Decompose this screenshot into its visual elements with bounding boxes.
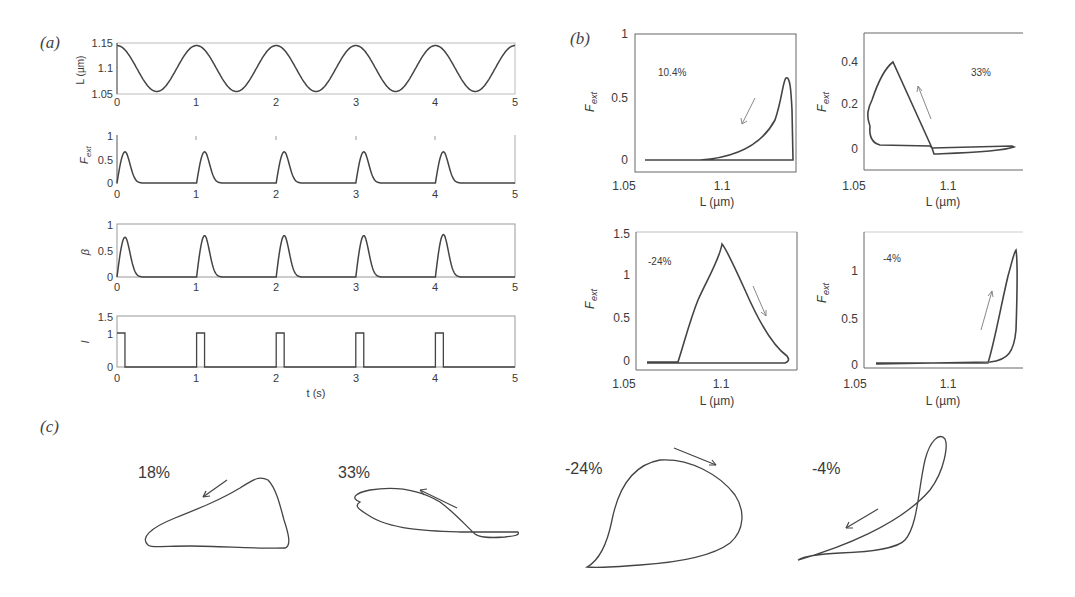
I-series-line: [117, 333, 515, 367]
y-axis-label: L (µm): [75, 56, 86, 85]
y-tick-label: 0: [621, 153, 628, 167]
x-tick-label: 1.1: [713, 377, 730, 391]
loop-curve: [645, 78, 793, 160]
y-axis-label: F ext: [815, 282, 831, 303]
x-tick-labels: 0 1 2 3 4 5: [114, 281, 518, 293]
svg-text:4: 4: [432, 96, 438, 108]
y-tick-label: 0.5: [611, 91, 628, 105]
chart-b4: -4% 1 0.5 0 F ext 1.05 1.1 L (µm): [815, 232, 1023, 408]
svg-text:4: 4: [432, 281, 438, 293]
direction-arrow: [674, 448, 716, 465]
svg-text:3: 3: [353, 96, 359, 108]
svg-text:3: 3: [353, 281, 359, 293]
svg-text:1: 1: [193, 188, 199, 200]
x-axis-label: t (s): [307, 387, 326, 399]
x-axis-label: L (µm): [926, 195, 960, 209]
svg-text:F: F: [815, 295, 829, 303]
plot-frame: [635, 34, 796, 172]
y-tick-label: 0.2: [841, 97, 858, 111]
panel-label-c: (c): [40, 417, 59, 436]
percent-annotation: -4%: [883, 253, 901, 264]
loop-label-minus24: -24%: [565, 460, 602, 477]
x-axis-label: L (µm): [700, 394, 734, 408]
svg-text:4: 4: [432, 372, 438, 384]
y-tick-label: 0: [107, 271, 113, 283]
svg-text:5: 5: [512, 188, 518, 200]
svg-text:F: F: [815, 104, 829, 112]
x-tick-label: 1.05: [843, 377, 867, 391]
plot-frame: [117, 316, 515, 367]
direction-arrow: [742, 98, 755, 124]
y-tick-label: 1: [107, 130, 113, 142]
svg-text:5: 5: [512, 96, 518, 108]
y-axis-label: F ext: [78, 146, 93, 164]
svg-text:ext: ext: [589, 288, 599, 301]
percent-annotation: -24%: [648, 256, 671, 267]
x-tick-label: 1.1: [940, 377, 957, 391]
loop-label-33: 33%: [338, 464, 370, 481]
y-tick-label: 1: [621, 27, 628, 41]
x-axis-label: L (µm): [926, 394, 960, 408]
svg-text:3: 3: [353, 188, 359, 200]
chart-a4-I: 1.5 1 0 I 0 1 2 3 4 5 t (s): [79, 311, 518, 399]
direction-arrow: [846, 509, 878, 528]
chart-a2-Fext: 1 0.5 0 F ext 0 1 2 3 4 5: [78, 130, 518, 200]
plot-frame: [117, 224, 515, 277]
svg-text:1: 1: [193, 372, 199, 384]
top-ticks: [196, 136, 435, 140]
y-tick-label: 1.5: [98, 311, 113, 323]
y-tick-label: 1: [107, 219, 113, 231]
L-series-line: [117, 46, 515, 92]
y-tick-label: 0: [623, 354, 630, 368]
svg-text:2: 2: [273, 188, 279, 200]
loop-label-18: 18%: [138, 464, 170, 481]
y-tick-label: 0.5: [613, 311, 630, 325]
x-tick-labels: 0 1 2 3 4 5: [114, 372, 518, 384]
y-tick-label: 0.5: [841, 312, 858, 326]
y-axis-label: I: [79, 340, 91, 343]
y-axis-label: F ext: [583, 288, 599, 309]
panel-label-a: (a): [40, 33, 60, 52]
svg-text:ext: ext: [821, 282, 831, 295]
y-tick-label: 1: [851, 264, 858, 278]
y-tick-label: 1.05: [92, 88, 113, 100]
svg-text:F: F: [583, 301, 597, 309]
x-tick-label: 1.05: [842, 179, 866, 193]
svg-text:4: 4: [432, 188, 438, 200]
svg-text:1: 1: [193, 281, 199, 293]
y-tick-label: 0: [107, 361, 113, 373]
x-tick-label: 1.05: [612, 377, 636, 391]
figure-canvas: (a) (b) (c) 1.15 1.1 1.05 L (µm) 0 1 2 3…: [0, 0, 1075, 597]
y-tick-label: 0.5: [98, 154, 113, 166]
y-tick-label: 0: [851, 358, 858, 372]
svg-text:0: 0: [114, 188, 120, 200]
y-tick-label: 0.5: [98, 245, 113, 257]
y-tick-label: 1.5: [613, 227, 630, 241]
svg-text:ext: ext: [821, 91, 831, 104]
x-axis-label: L (µm): [700, 195, 734, 209]
y-axis-label: F ext: [583, 91, 599, 112]
svg-text:2: 2: [273, 372, 279, 384]
chart-b3: -24% 1.5 1 0.5 0 F ext 1.05 1.1 L (µm): [583, 227, 797, 408]
panel-label-b: (b): [570, 29, 590, 48]
y-tick-label: 0: [851, 142, 858, 156]
loop-curve-minus4: [798, 437, 946, 560]
svg-text:5: 5: [512, 372, 518, 384]
loop-curve-minus24: [587, 460, 742, 568]
chart-a1-L: 1.15 1.1 1.05 L (µm) 0 1 2 3 4 5: [75, 37, 518, 108]
Fext-series-line: [117, 152, 515, 183]
svg-text:0: 0: [114, 96, 120, 108]
x-tick-label: 1.05: [612, 179, 636, 193]
percent-annotation: 10.4%: [658, 67, 686, 78]
percent-annotation: 33%: [971, 67, 991, 78]
svg-text:2: 2: [273, 281, 279, 293]
loop-label-minus4: -4%: [812, 460, 840, 477]
loop-curve-33: [355, 489, 519, 538]
svg-text:2: 2: [273, 96, 279, 108]
panel-c-loops: 18% 33% -24% -4%: [138, 437, 946, 568]
svg-text:F: F: [583, 104, 597, 112]
y-axis-label: F ext: [815, 91, 831, 112]
y-tick-label: 1.1: [98, 62, 113, 74]
direction-arrow: [918, 86, 931, 119]
svg-text:ext: ext: [589, 91, 599, 104]
